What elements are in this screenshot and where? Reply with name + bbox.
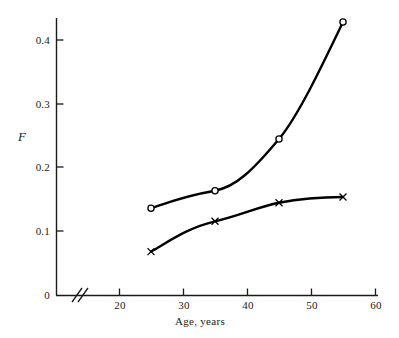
x-tick-label-60: 60 bbox=[370, 299, 381, 311]
y-axis-title: F bbox=[18, 129, 26, 145]
x-tick-label-40: 40 bbox=[242, 299, 253, 311]
x-axis-ticks bbox=[120, 289, 376, 296]
plot-area bbox=[0, 0, 399, 338]
upper-curve-line bbox=[151, 22, 343, 208]
y-axis-ticks bbox=[57, 40, 64, 231]
data-point-marker bbox=[148, 248, 155, 255]
x-tick-label-50: 50 bbox=[306, 299, 317, 311]
x-axis-title: Age, years bbox=[175, 315, 225, 327]
lower-curve-markers bbox=[148, 194, 347, 256]
upper-curve-markers bbox=[148, 19, 346, 212]
data-point-marker bbox=[340, 19, 346, 25]
chart-figure: 0.4 0.3 0.2 0.1 0 20 30 40 50 60 F Age, … bbox=[0, 0, 399, 338]
y-tick-label-0.2: 0.2 bbox=[16, 161, 50, 173]
lower-curve-line bbox=[151, 197, 343, 252]
x-tick-label-20: 20 bbox=[114, 299, 125, 311]
data-point-marker bbox=[212, 188, 218, 194]
y-tick-label-0.3: 0.3 bbox=[16, 98, 50, 110]
y-tick-label-0: 0 bbox=[16, 289, 50, 301]
data-point-marker bbox=[276, 136, 282, 142]
data-point-marker bbox=[148, 205, 154, 211]
x-tick-label-30: 30 bbox=[178, 299, 189, 311]
y-tick-label-0.4: 0.4 bbox=[16, 34, 50, 46]
y-tick-label-0.1: 0.1 bbox=[16, 225, 50, 237]
